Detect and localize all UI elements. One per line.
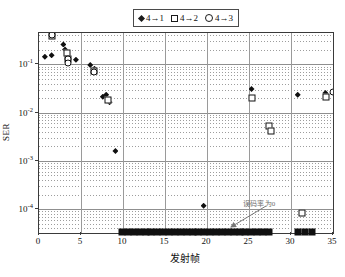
y-tick-label: 10-1 [19, 57, 33, 69]
legend-label-0: 4→1 [146, 14, 164, 23]
x-tick-label: 10 [118, 236, 127, 246]
data-point [267, 127, 274, 134]
zero-ser-marker [266, 229, 273, 236]
data-point [104, 96, 111, 103]
x-tick-mark [290, 232, 291, 235]
x-tick-mark [80, 232, 81, 235]
x-tick-mark [332, 232, 333, 235]
legend-item-1: 4→2 [171, 14, 198, 23]
x-tick-label: 30 [286, 236, 295, 246]
legend-item-2: 4→3 [205, 14, 233, 23]
data-point [91, 68, 98, 75]
annotation-text: 误码率为0 [243, 198, 276, 208]
x-tick-mark [38, 232, 39, 235]
legend-label-2: 4→3 [215, 14, 233, 23]
data-point [249, 94, 256, 101]
open-square-icon [171, 15, 178, 22]
x-tick-label: 0 [36, 236, 41, 246]
zero-ser-marker [308, 229, 315, 236]
y-axis-title: SER [1, 123, 11, 141]
filled-diamond-icon [138, 14, 145, 21]
data-point [48, 32, 55, 39]
data-point [298, 210, 305, 217]
y-tick-mark [35, 63, 38, 64]
chart-figure: 4→1 4→2 4→3 10-110-210-310-4 05101520253… [0, 0, 345, 277]
data-point [65, 59, 72, 66]
y-tick-label: 10-4 [19, 202, 33, 214]
open-circle-icon [205, 14, 213, 22]
x-axis-title: 发射帧 [170, 250, 200, 265]
y-tick-mark [35, 112, 38, 113]
chart-legend: 4→1 4→2 4→3 [133, 9, 239, 27]
x-tick-label: 25 [244, 236, 253, 246]
y-tick-label: 10-3 [19, 154, 33, 166]
y-tick-mark [35, 160, 38, 161]
legend-label-1: 4→2 [180, 14, 198, 23]
y-tick-mark [35, 208, 38, 209]
y-tick-label: 10-2 [19, 106, 33, 118]
x-tick-label: 20 [202, 236, 211, 246]
x-tick-label: 5 [78, 236, 83, 246]
x-tick-label: 35 [328, 236, 337, 246]
legend-item-0: 4→1 [139, 14, 164, 23]
data-point [323, 93, 330, 100]
x-tick-label: 15 [160, 236, 169, 246]
